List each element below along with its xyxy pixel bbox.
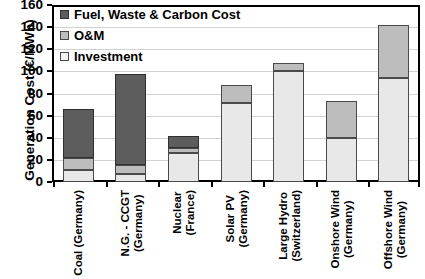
x-axis-label: Onshore Wind(Germany)	[329, 190, 354, 268]
x-axis-label-line: Onshore Wind	[329, 190, 342, 268]
x-axis-label-line: N.G. - CCGT	[118, 190, 131, 256]
bar-segment-om	[63, 158, 94, 170]
y-axis-tick-label: 0	[35, 176, 43, 188]
x-axis-tick	[368, 182, 370, 187]
y-axis-tick-label: 120	[20, 43, 43, 55]
x-axis-tick	[106, 182, 108, 187]
bar-segment-om	[326, 101, 357, 138]
x-axis-label-slot: Nuclear(France)	[157, 190, 210, 276]
legend-label-om: O&M	[74, 29, 104, 42]
x-axis-label-line: (Germany)	[341, 190, 354, 268]
x-axis-label-line: (Switzerland)	[289, 190, 302, 262]
x-axis-label-slot: Coal (Germany)	[52, 190, 105, 276]
x-axis-label-line: Solar PV	[223, 190, 236, 248]
bar-segment-investment	[168, 153, 199, 182]
legend-label-investment: Investment	[74, 50, 143, 63]
bar-6	[326, 5, 357, 182]
legend-item-fuel: Fuel, Waste & Carbon Cost	[60, 6, 290, 22]
x-axis-label-slot: Solar PV(Germany)	[210, 190, 263, 276]
x-axis-label-line: (Germany)	[131, 190, 144, 256]
x-axis-label: Coal (Germany)	[72, 190, 85, 276]
plot-right-border	[418, 5, 420, 182]
legend-swatch-fuel-icon	[60, 10, 69, 19]
bar-segment-om	[378, 25, 409, 78]
x-axis-tick	[211, 182, 213, 187]
bar-segment-fuel	[168, 136, 199, 148]
bar-segment-investment	[326, 138, 357, 182]
x-axis-label-line: (Germany)	[236, 190, 249, 248]
legend-swatch-om-icon	[60, 31, 69, 40]
y-axis-tick-label: 100	[20, 65, 43, 77]
y-axis-tick-label: 60	[28, 110, 43, 122]
generation-cost-chart: Generation Cost (€/MWh) 0204060801001201…	[0, 0, 425, 279]
x-axis-tick	[316, 182, 318, 187]
bar-segment-fuel	[115, 74, 146, 166]
x-axis-label-line: Offshore Wind	[381, 190, 394, 269]
bar-segment-investment	[378, 78, 409, 182]
legend-item-om: O&M	[60, 27, 290, 43]
x-axis-label-slot: Large Hydro(Switzerland)	[262, 190, 315, 276]
x-axis-label: Offshore Wind(Germany)	[381, 190, 406, 269]
legend-label-fuel: Fuel, Waste & Carbon Cost	[74, 8, 240, 21]
x-axis-label: Solar PV(Germany)	[223, 190, 248, 248]
y-axis-tick-label: 40	[28, 132, 43, 144]
legend-item-investment: Investment	[60, 48, 290, 64]
bar-segment-om	[115, 165, 146, 174]
x-axis-tick	[263, 182, 265, 187]
y-axis-tick-label: 140	[20, 21, 43, 33]
x-axis-label-slot: N.G. - CCGT(Germany)	[105, 190, 158, 276]
x-axis-tick	[53, 182, 55, 187]
y-axis-tick-label: 160	[20, 0, 43, 11]
x-axis-label: Large Hydro(Switzerland)	[276, 190, 301, 262]
x-axis-tick	[418, 182, 420, 187]
x-axis-label-line: Large Hydro	[276, 190, 289, 262]
y-axis-tick-label: 20	[28, 154, 43, 166]
bar-segment-investment	[63, 170, 94, 182]
y-axis-tick-label: 80	[28, 88, 43, 100]
y-axis-ticks: 020406080100120140160	[0, 0, 52, 177]
bar-7	[378, 5, 409, 182]
bar-segment-investment	[273, 71, 304, 182]
x-axis-label-slot: Offshore Wind(Germany)	[367, 190, 420, 276]
x-axis-label: Nuclear(France)	[171, 190, 196, 235]
x-axis-label-line: (France)	[183, 190, 196, 235]
bar-segment-investment	[115, 174, 146, 182]
chart-legend: Fuel, Waste & Carbon Cost O&M Investment	[60, 6, 290, 69]
x-axis-labels: Coal (Germany)N.G. - CCGT(Germany)Nuclea…	[52, 190, 420, 276]
x-axis-label-line: Nuclear	[171, 190, 184, 235]
x-axis-label: N.G. - CCGT(Germany)	[118, 190, 143, 256]
x-axis-label-line: Coal (Germany)	[72, 190, 85, 276]
bar-segment-om	[221, 85, 252, 104]
bar-segment-investment	[221, 103, 252, 182]
x-axis-tick	[158, 182, 160, 187]
legend-swatch-investment-icon	[60, 52, 69, 61]
x-axis-label-line: (Germany)	[394, 190, 407, 269]
bar-segment-fuel	[63, 109, 94, 158]
x-axis-label-slot: Onshore Wind(Germany)	[315, 190, 368, 276]
bar-segment-om	[168, 148, 199, 154]
